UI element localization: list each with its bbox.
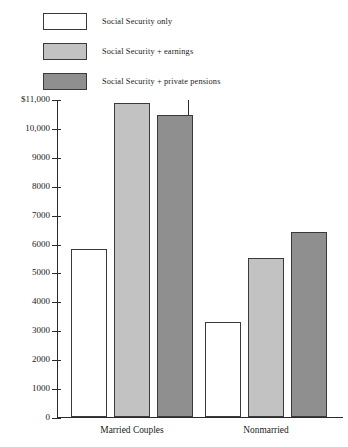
bar xyxy=(114,103,150,417)
legend-item-ss-earnings: Social Security + earnings xyxy=(43,38,343,64)
y-tick-label: 10,000 xyxy=(25,123,50,133)
y-tick-label: 0 xyxy=(46,412,51,422)
y-tick-mark xyxy=(52,331,61,332)
legend-swatch-ss-only xyxy=(43,13,87,30)
bar xyxy=(71,249,107,417)
y-tick-label: 2000 xyxy=(32,354,50,364)
y-tick-mark xyxy=(52,100,61,101)
y-tick: 1000 xyxy=(57,389,66,390)
chart-legend: Social Security only Social Security + e… xyxy=(43,8,343,98)
y-tick-label: 3000 xyxy=(32,325,50,335)
bar xyxy=(205,322,241,417)
y-tick: $11,000 xyxy=(57,100,66,101)
y-tick-label: $11,000 xyxy=(21,94,50,104)
y-tick-mark xyxy=(52,187,61,188)
plot-area: $11,00010,000900080007000600050004000300… xyxy=(57,100,343,418)
y-tick-mark xyxy=(52,360,61,361)
legend-swatch-ss-earnings xyxy=(43,43,87,60)
x-axis-line xyxy=(57,417,343,418)
legend-label-ss-earnings: Social Security + earnings xyxy=(102,47,193,56)
y-tick-mark xyxy=(52,158,61,159)
y-tick: 7000 xyxy=(57,216,66,217)
y-tick: 2000 xyxy=(57,360,66,361)
y-tick-mark xyxy=(52,302,61,303)
y-tick-mark xyxy=(52,129,61,130)
y-tick-label: 1000 xyxy=(32,383,50,393)
y-tick: 4000 xyxy=(57,302,66,303)
y-tick-mark xyxy=(52,389,61,390)
bar xyxy=(157,115,193,417)
y-tick-label: 9000 xyxy=(32,152,50,162)
y-tick: 5000 xyxy=(57,273,66,274)
y-tick-mark xyxy=(52,245,61,246)
y-tick: 9000 xyxy=(57,158,66,159)
y-tick-label: 7000 xyxy=(32,210,50,220)
legend-item-ss-only: Social Security only xyxy=(43,8,343,34)
legend-item-ss-pensions: Social Security + private pensions xyxy=(43,68,343,94)
y-tick-label: 8000 xyxy=(32,181,50,191)
y-tick: 3000 xyxy=(57,331,66,332)
legend-swatch-ss-pensions xyxy=(43,73,87,90)
bar xyxy=(291,232,327,417)
y-tick-mark xyxy=(52,216,61,217)
y-tick: 8000 xyxy=(57,187,66,188)
y-tick: 0 xyxy=(57,418,66,419)
bar xyxy=(248,258,284,417)
y-axis-line xyxy=(57,100,58,418)
y-tick: 6000 xyxy=(57,245,66,246)
bar-chart-figure: Social Security only Social Security + e… xyxy=(0,0,348,447)
y-tick-mark xyxy=(52,418,61,419)
y-tick-label: 5000 xyxy=(32,267,50,277)
y-tick-mark xyxy=(52,273,61,274)
x-axis-label-married-couples: Married Couples xyxy=(62,425,202,435)
x-axis-label-nonmarried: Nonmarried xyxy=(196,425,336,435)
legend-label-ss-only: Social Security only xyxy=(102,17,172,26)
y-tick: 10,000 xyxy=(57,129,66,130)
legend-label-ss-pensions: Social Security + private pensions xyxy=(102,77,221,86)
y-tick-label: 4000 xyxy=(32,296,50,306)
y-tick-label: 6000 xyxy=(32,239,50,249)
